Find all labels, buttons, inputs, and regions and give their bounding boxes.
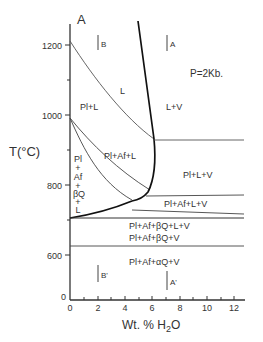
marker-b-label: B — [101, 40, 106, 49]
y-tick-1200: 1200 — [42, 41, 62, 51]
y-tick-0: 0 — [61, 292, 66, 302]
y-ticks — [65, 45, 70, 255]
field-pl-af-bq-l-stack: Pl + Af + βQ + L — [73, 154, 85, 215]
x-tick-12: 12 — [229, 303, 239, 313]
field-l-v: L+V — [166, 102, 182, 112]
phase-diagram: A P=2Kb. B A B' A' 1200 1000 800 600 0 0… — [0, 0, 263, 342]
marker-a-label: A — [170, 40, 176, 49]
x-tick-4: 4 — [122, 303, 127, 313]
field-pl-af-bq-l-v: Pl+Af+βQ+L+V — [129, 221, 190, 231]
field-pl-l: Pl+L — [80, 102, 98, 112]
field-pl-af-aq-v: Pl+Af+αQ+V — [129, 257, 179, 267]
vapor-saturation-boundary — [132, 21, 155, 201]
y-tick-600: 600 — [47, 251, 62, 261]
x-tick-8: 8 — [177, 303, 182, 313]
field-pl-l-v: Pl+L+V — [183, 170, 213, 180]
svg-text:L: L — [75, 205, 80, 215]
panel-label: A — [77, 12, 86, 27]
marker-b-prime-label: B' — [101, 271, 108, 280]
boundary-pl-l-v — [146, 195, 244, 196]
x-tick-10: 10 — [202, 303, 212, 313]
field-pl-af-l-v: Pl+Af+L+V — [164, 199, 207, 209]
field-l: L — [120, 86, 125, 96]
x-tick-2: 2 — [95, 303, 100, 313]
pressure-label: P=2Kb. — [190, 68, 223, 79]
x-tick-6: 6 — [149, 303, 154, 313]
y-axis-title: T(°C) — [9, 144, 40, 159]
x-axis-title: Wt. % H2O — [122, 318, 180, 334]
boundary-pl-af-l-v — [132, 210, 244, 214]
y-tick-800: 800 — [47, 181, 62, 191]
y-tick-1000: 1000 — [42, 111, 62, 121]
x-tick-0: 0 — [67, 303, 72, 313]
pl-liquidus-curve — [70, 41, 154, 139]
field-pl-af-l: Pl+Af+L — [104, 151, 136, 161]
field-pl-af-bq-v: Pl+Af+βQ+V — [129, 233, 179, 243]
marker-a-prime-label: A' — [170, 278, 177, 287]
